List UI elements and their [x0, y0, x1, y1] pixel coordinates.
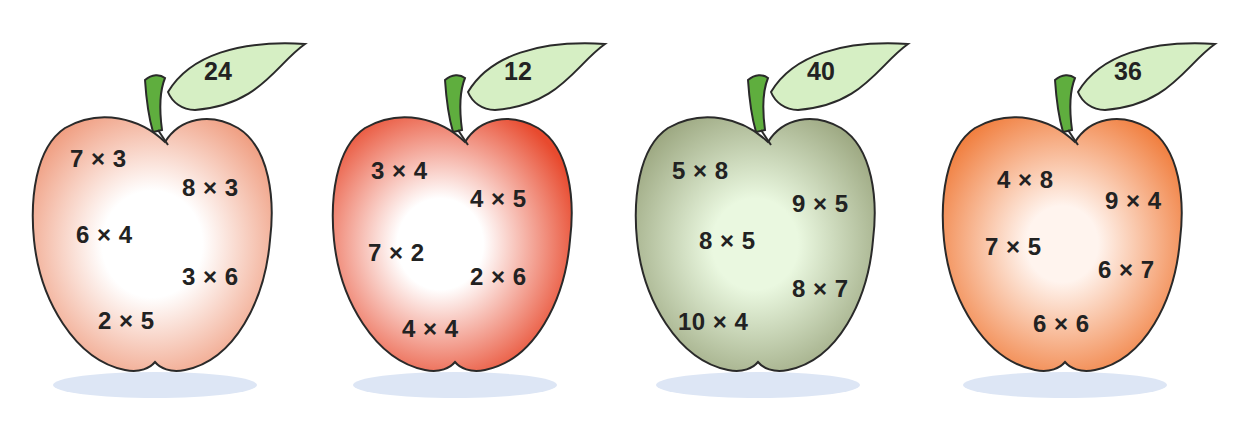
- fact-3: 7 × 2: [368, 239, 425, 267]
- fact-4: 6 × 7: [1098, 256, 1155, 284]
- fact-2: 9 × 4: [1105, 187, 1162, 215]
- fact-1: 4 × 8: [997, 166, 1054, 194]
- fact-2: 9 × 5: [792, 190, 849, 218]
- fact-5: 4 × 4: [402, 315, 459, 343]
- leaf-answer: 12: [488, 57, 548, 86]
- apple-3-drawing: [620, 30, 920, 410]
- apple-2-drawing: [320, 30, 620, 410]
- shadow: [53, 372, 257, 398]
- leaf-answer: 40: [791, 57, 851, 86]
- apple-1-drawing: [20, 30, 320, 410]
- apple-card-4: 36 4 × 8 9 × 4 7 × 5 6 × 7 6 × 6: [930, 30, 1230, 410]
- stem-icon: [1055, 75, 1075, 132]
- shadow: [353, 372, 557, 398]
- stem-icon: [145, 75, 165, 132]
- fact-1: 5 × 8: [672, 157, 729, 185]
- fact-1: 3 × 4: [371, 157, 428, 185]
- fact-4: 8 × 7: [792, 275, 849, 303]
- fact-5: 2 × 5: [98, 307, 155, 335]
- fact-5: 6 × 6: [1033, 310, 1090, 338]
- fact-1: 7 × 3: [70, 145, 127, 173]
- fact-2: 8 × 3: [182, 174, 239, 202]
- shadow: [656, 372, 860, 398]
- stem-icon: [748, 75, 768, 132]
- fact-5: 10 × 4: [678, 308, 748, 336]
- fact-3: 6 × 4: [76, 221, 133, 249]
- leaf-answer: 36: [1098, 57, 1158, 86]
- shadow: [963, 372, 1167, 398]
- leaf-answer: 24: [188, 57, 248, 86]
- apple-card-1: 24 7 × 3 8 × 3 6 × 4 3 × 6 2 × 5: [20, 30, 320, 410]
- apple-4-drawing: [930, 30, 1230, 410]
- stem-icon: [445, 75, 465, 132]
- fact-2: 4 × 5: [470, 185, 527, 213]
- apple-card-3: 40 5 × 8 9 × 5 8 × 5 8 × 7 10 × 4: [620, 30, 920, 410]
- apple-card-2: 12 3 × 4 4 × 5 7 × 2 2 × 6 4 × 4: [320, 30, 620, 410]
- fact-3: 7 × 5: [985, 233, 1042, 261]
- fact-4: 2 × 6: [470, 263, 527, 291]
- fact-3: 8 × 5: [699, 227, 756, 255]
- fact-4: 3 × 6: [182, 263, 239, 291]
